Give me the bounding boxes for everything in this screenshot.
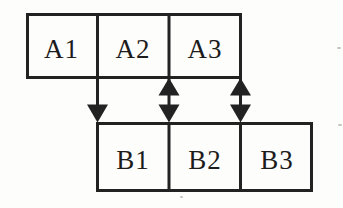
connector-single-down-arrow (87, 78, 108, 123)
box-a3: A3 (169, 13, 241, 79)
box-a1: A1 (26, 13, 97, 79)
box-b1: B1 (97, 122, 169, 192)
arrowhead-up-icon (230, 78, 251, 96)
scan-speck (337, 47, 341, 49)
connector-double-arrow-left (159, 78, 180, 123)
scan-speck (338, 124, 342, 126)
box-a2: A2 (97, 13, 169, 79)
arrowhead-down-icon (230, 105, 251, 123)
diagram-canvas: A1 A2 A3 B1 B2 B3 (0, 0, 343, 208)
arrowhead-down-icon (87, 105, 108, 123)
scan-speck (180, 196, 183, 198)
box-b3: B3 (241, 122, 313, 192)
connector-double-arrow-right (230, 78, 251, 123)
box-b2: B2 (169, 122, 241, 192)
arrowhead-up-icon (159, 78, 180, 96)
arrowhead-down-icon (159, 105, 180, 123)
